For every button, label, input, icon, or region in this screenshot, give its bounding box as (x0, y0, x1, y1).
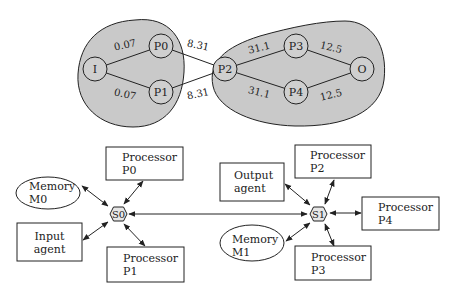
switch-s0: S0 (110, 207, 127, 221)
node-p4: P4 (284, 80, 308, 104)
processor-p1-box: Processor P1 (107, 247, 184, 282)
switch-label: S0 (112, 209, 125, 220)
node-p1: P1 (149, 80, 173, 104)
box-line1: Input (35, 230, 66, 243)
node-label: P0 (154, 40, 168, 53)
link-s0-m0 (82, 186, 108, 206)
processor-p2-box: Processor P2 (295, 145, 371, 178)
box-line2: M0 (29, 193, 47, 206)
node-p0: P0 (149, 34, 173, 58)
node-label: P1 (154, 86, 168, 99)
link-s1-p3 (325, 224, 334, 246)
processor-p0-box: Processor P0 (106, 147, 183, 180)
processor-p3-box: Processor P3 (295, 246, 371, 280)
box-line1: Memory (232, 233, 279, 246)
memory-m0-ellipse: Memory M0 (16, 177, 80, 209)
node-p2: P2 (213, 57, 237, 81)
box-line2: agent (234, 182, 266, 195)
box-line1: Processor (123, 252, 179, 265)
node-i: I (83, 57, 107, 81)
output-agent-box: Output agent (220, 163, 284, 201)
diagram-canvas: 0.07 0.07 8.31 8.31 31.1 31.1 12.5 12.5 … (0, 0, 453, 294)
box-line1: Processor (311, 251, 367, 264)
box-line1: Memory (29, 180, 76, 193)
task-graph: 0.07 0.07 8.31 8.31 31.1 31.1 12.5 12.5 … (78, 20, 385, 127)
box-line2: P4 (378, 214, 392, 227)
link-s0-p0 (124, 181, 143, 204)
box-line2: P3 (311, 264, 325, 277)
link-s1-p2 (325, 180, 334, 204)
node-label: P3 (289, 40, 303, 53)
box-line1: Processor (378, 201, 434, 214)
switch-s1: S1 (310, 207, 327, 221)
box-line1: Processor (122, 151, 178, 164)
switch-label: S1 (312, 209, 325, 220)
box-line1: Processor (310, 149, 366, 162)
link-s1-output (285, 184, 310, 205)
box-line2: P2 (310, 162, 324, 175)
box-line1: Output (234, 169, 274, 182)
node-o: O (350, 57, 374, 81)
box-line2: P0 (122, 164, 136, 177)
box-line2: M1 (232, 246, 250, 259)
processor-p4-box: Processor P4 (362, 197, 439, 230)
box-line2: agent (34, 243, 66, 256)
link-s0-input (83, 222, 108, 240)
edge-label-p1-p2: 8.31 (186, 86, 210, 101)
edge-label-p0-p2: 8.31 (186, 37, 210, 52)
link-s1-m1 (286, 223, 310, 241)
node-label: O (357, 63, 366, 76)
link-s0-p1 (124, 224, 145, 246)
box-line2: P1 (123, 265, 137, 278)
node-label: I (93, 63, 97, 76)
input-agent-box: Input agent (17, 223, 82, 261)
architecture: S0 S1 Processor P0 Memory M0 Input agent (16, 145, 439, 282)
node-label: P4 (289, 86, 303, 99)
node-label: P2 (218, 63, 232, 76)
memory-m1-ellipse: Memory M1 (220, 225, 284, 261)
node-p3: P3 (284, 34, 308, 58)
